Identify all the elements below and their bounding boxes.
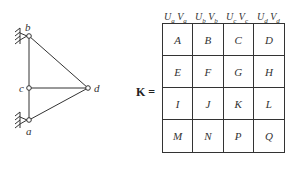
- matrix-cell: K: [224, 88, 254, 120]
- truss-members: [29, 36, 88, 120]
- matrix-cell: G: [224, 56, 254, 88]
- matrix-cell: M: [163, 120, 193, 152]
- matrix-cell: D: [254, 24, 284, 56]
- matrix-cell: I: [163, 88, 193, 120]
- matrix-cell: E: [163, 56, 193, 88]
- truss-diagram: [0, 0, 120, 177]
- matrix-cell: C: [224, 24, 254, 56]
- matrix-cell: F: [193, 56, 223, 88]
- stiffness-matrix-grid: A B C D E F G H I J K L M N P Q: [162, 23, 285, 153]
- node-label-b: b: [25, 22, 31, 33]
- node-label-d: d: [94, 83, 100, 94]
- matrix-cell: P: [224, 120, 254, 152]
- matrix-cell: N: [193, 120, 223, 152]
- matrix-label: K =: [136, 85, 155, 100]
- matrix-cell: L: [254, 88, 284, 120]
- node-label-c: c: [19, 83, 24, 94]
- matrix-cell: Q: [254, 120, 284, 152]
- matrix-cell: H: [254, 56, 284, 88]
- matrix-cell: J: [193, 88, 223, 120]
- truss-joints: [27, 34, 91, 123]
- node-label-a: a: [26, 126, 32, 137]
- matrix-cell: A: [163, 24, 193, 56]
- matrix-cell: B: [193, 24, 223, 56]
